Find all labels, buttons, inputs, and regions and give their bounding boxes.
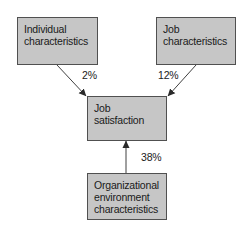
edge-label-individual: 2% [82,69,97,81]
diagram-canvas: Individual characteristics Job character… [0,0,252,228]
node-line: characteristics [163,35,229,47]
node-organizational-environment-characteristics: Organizational environment characteristi… [87,173,167,220]
node-line: Job [163,23,229,35]
node-line: Job [94,102,160,114]
node-line: characteristics [94,203,160,215]
node-line: satisfaction [94,114,160,126]
node-individual-characteristics: Individual characteristics [17,17,98,65]
node-line: Individual [24,23,91,35]
edge-label-organizational: 38% [141,151,161,163]
node-job-characteristics: Job characteristics [156,17,236,65]
node-line: Organizational [94,179,160,191]
node-job-satisfaction: Job satisfaction [87,96,167,141]
node-line: environment [94,191,160,203]
node-line: characteristics [24,35,91,47]
edge-label-job: 12% [158,69,178,81]
